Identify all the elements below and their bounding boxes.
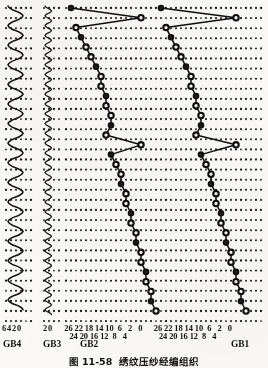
point-paper-dot-grid xyxy=(5,7,262,322)
axis-tick-gb1-6: 6 xyxy=(207,325,211,333)
axis-tick-gb1-20: 20 xyxy=(169,333,177,341)
axis-tick-gb1-24: 24 xyxy=(159,333,167,341)
axis-tick-gb3-2: 2 xyxy=(43,325,47,333)
axis-tick-gb2-0: 0 xyxy=(138,325,142,333)
figure-caption: 图 11-58绣纹压纱经编组织 xyxy=(0,357,268,368)
axis-tick-gb1-4: 4 xyxy=(212,333,216,341)
axis-tick-gb1-16: 16 xyxy=(179,333,187,341)
axis-tick-gb2-24: 24 xyxy=(69,333,77,341)
axis-tick-gb4-0: 0 xyxy=(17,325,21,333)
axis-tick-gb3-0: 0 xyxy=(48,325,52,333)
figure-caption-text: 绣纹压纱经编组织 xyxy=(119,357,199,367)
bar-label-gb1: GB1 xyxy=(231,340,249,349)
axis-tick-gb2-6: 6 xyxy=(118,325,122,333)
bar-label-gb3: GB3 xyxy=(43,340,61,349)
lapping-diagram-canvas xyxy=(0,0,268,368)
axis-tick-gb1-8: 8 xyxy=(202,333,206,341)
warp-knitting-lapping-figure: 6420202622181410620242016128426221814106… xyxy=(0,0,268,368)
axis-tick-gb2-4: 4 xyxy=(123,333,127,341)
axis-tick-gb2-2: 2 xyxy=(128,325,132,333)
gb3-lapping-trace xyxy=(45,6,52,315)
axis-tick-gb4-2: 2 xyxy=(12,325,16,333)
gb4-lapping-trace xyxy=(8,6,23,310)
axis-tick-gb1-0: 0 xyxy=(228,325,232,333)
bar-label-gb4: GB4 xyxy=(3,340,21,349)
axis-tick-gb1-2: 2 xyxy=(217,325,221,333)
axis-tick-gb4-6: 6 xyxy=(2,325,6,333)
bar-label-gb2: GB2 xyxy=(80,340,98,349)
axis-tick-gb1-12: 12 xyxy=(190,333,198,341)
figure-caption-number: 图 11-58 xyxy=(69,357,113,367)
axis-tick-gb4-4: 4 xyxy=(7,325,11,333)
axis-tick-gb2-12: 12 xyxy=(100,333,108,341)
axis-tick-gb2-8: 8 xyxy=(113,333,117,341)
